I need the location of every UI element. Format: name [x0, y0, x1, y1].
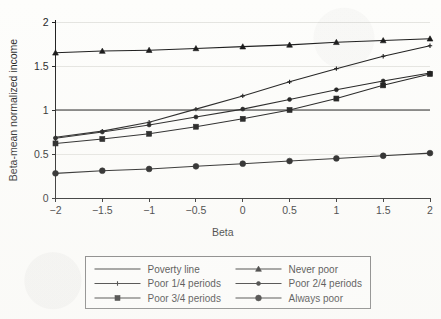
marker-circle	[240, 161, 246, 167]
x-tick-label: 0.5	[282, 204, 297, 216]
marker-circle	[99, 168, 105, 174]
chart-legend: Poverty lineNever poorPoor 1/4 periodsPo…	[86, 257, 371, 309]
x-axis-ticks: −2−1.5−1−0.500.511.52	[50, 198, 434, 216]
series-path	[56, 73, 431, 138]
series-group	[53, 36, 433, 176]
marker-dot	[54, 136, 58, 140]
marker-circle	[333, 156, 339, 162]
y-tick-label: 0.5	[34, 148, 49, 160]
marker-square	[147, 131, 152, 136]
marker-square	[428, 71, 433, 76]
marker-circle	[193, 163, 199, 169]
marker-circle	[256, 295, 262, 301]
marker-cross	[381, 54, 385, 58]
marker-circle	[146, 166, 152, 172]
legend-label: Poor 3/4 periods	[148, 293, 221, 304]
series-never-poor	[53, 36, 433, 55]
marker-square	[334, 96, 339, 101]
x-tick-label: −0.5	[186, 204, 207, 216]
y-tick-label: 0	[43, 192, 49, 204]
marker-square	[100, 137, 105, 142]
series-poor-1-4-periods	[53, 44, 432, 140]
marker-circle	[427, 150, 433, 156]
x-tick-label: 0	[240, 204, 246, 216]
y-tick-label: 1	[43, 104, 49, 116]
legend-label: Always poor	[289, 293, 344, 304]
marker-dot	[241, 107, 245, 111]
x-tick-label: −1	[143, 204, 155, 216]
marker-square	[381, 83, 386, 88]
legend-label: Never poor	[289, 264, 339, 275]
chart-figure: −2−1.5−1−0.500.511.52 00.511.52 BetaBeta…	[0, 0, 441, 319]
marker-square	[240, 116, 245, 121]
x-tick-label: 1.5	[376, 204, 391, 216]
marker-dot	[147, 123, 151, 127]
marker-dot	[288, 97, 292, 101]
marker-square	[115, 296, 120, 301]
marker-square	[53, 141, 58, 146]
marker-cross	[287, 80, 291, 84]
legend-label: Poor 1/4 periods	[148, 278, 221, 289]
line-chart: −2−1.5−1−0.500.511.52 00.511.52 BetaBeta…	[0, 0, 441, 319]
marker-square	[287, 108, 292, 113]
y-axis-title: Beta-mean normalized income	[7, 39, 19, 182]
marker-circle	[53, 170, 59, 176]
x-tick-label: −2	[50, 204, 62, 216]
y-tick-label: 2	[43, 16, 49, 28]
y-axis-ticks: 00.511.52	[34, 16, 56, 204]
marker-dot	[257, 282, 261, 286]
x-tick-label: −1.5	[92, 204, 113, 216]
x-tick-label: 2	[427, 204, 433, 216]
x-axis-title: Beta	[212, 226, 234, 238]
legend-label: Poor 2/4 periods	[289, 278, 362, 289]
marker-cross	[334, 66, 338, 70]
marker-cross	[194, 107, 198, 111]
marker-dot	[194, 115, 198, 119]
marker-square	[193, 124, 198, 129]
y-tick-label: 1.5	[34, 60, 49, 72]
legend-label: Poverty line	[148, 264, 201, 275]
series-path	[56, 46, 431, 138]
marker-circle	[380, 153, 386, 159]
marker-cross	[241, 94, 245, 98]
x-tick-label: 1	[333, 204, 339, 216]
marker-dot	[381, 79, 385, 83]
marker-cross	[428, 44, 432, 48]
marker-dot	[334, 88, 338, 92]
marker-circle	[287, 158, 293, 164]
marker-dot	[100, 130, 104, 134]
